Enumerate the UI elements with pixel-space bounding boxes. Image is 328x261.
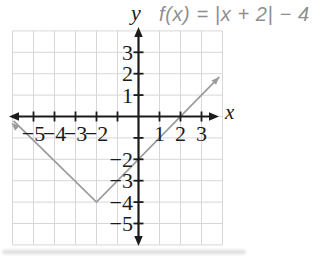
y-axis-title: y [131,0,141,26]
y-axis-arrowhead-top [134,27,142,37]
graph-caption: y f(x) = |x + 2| − 4 [0,0,328,28]
x-tick-label: 1 [154,121,165,146]
y-tick-label: −5 [110,211,133,236]
x-tick-label: −5 [22,121,45,146]
graph-figure: −5−4−3−2123321−2−3−4−5x y f(x) = |x + 2|… [0,0,328,261]
x-tick-label: −3 [64,121,87,146]
x-tick-label: 3 [196,121,207,146]
x-axis-arrowhead-right [209,112,219,120]
x-axis-label: x [224,100,235,124]
graph-canvas: −5−4−3−2123321−2−3−4−5x [0,0,328,261]
scan-shadow [2,250,246,254]
x-tick-label: −2 [85,121,108,146]
y-tick-label: 1 [122,83,133,108]
x-tick-label: −4 [43,121,66,146]
function-formula: f(x) = |x + 2| − 4 [159,1,310,27]
x-axis-arrowhead-left [9,112,19,120]
x-tick-label: 2 [175,121,186,146]
